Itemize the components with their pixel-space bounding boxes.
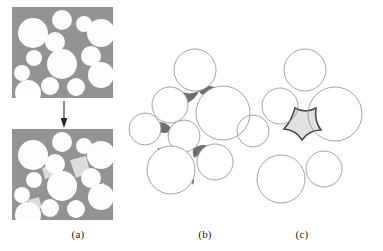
caption-a: (a) [48,228,108,240]
particle [196,86,250,140]
particle [14,65,30,81]
particle [152,87,188,123]
transition-arrow [61,101,68,128]
particle [67,200,85,218]
particle [15,202,41,228]
panel-b-group [129,49,250,194]
particle [52,10,72,30]
particle [87,141,115,169]
particle [26,172,42,188]
central-pore [284,108,321,140]
particle [87,19,115,47]
particle [88,62,114,88]
particle [41,199,59,217]
panel-a-bottom-box [12,129,115,228]
particle [262,88,298,124]
particle [18,140,48,170]
figure-root: (a) (b) (c) [0,0,383,251]
particle [257,155,305,203]
particle [52,132,72,152]
panel-c-group [237,49,362,203]
particle [18,18,48,48]
particle [67,78,85,96]
particle [174,49,216,91]
particle [129,113,161,145]
particle [15,80,41,106]
particle [284,49,326,91]
particle [41,77,59,95]
arrow-head-icon [61,118,68,128]
caption-c: (c) [272,228,332,240]
particle [147,146,195,194]
particle [88,184,114,210]
particle [47,171,77,201]
particles-b [129,49,250,194]
particle [306,151,342,187]
panel-a-top-box [12,7,115,106]
figure-canvas [0,0,383,251]
particle [26,50,42,66]
particle [197,144,233,180]
particle [47,49,77,79]
particle [14,187,30,203]
caption-b: (b) [175,228,235,240]
